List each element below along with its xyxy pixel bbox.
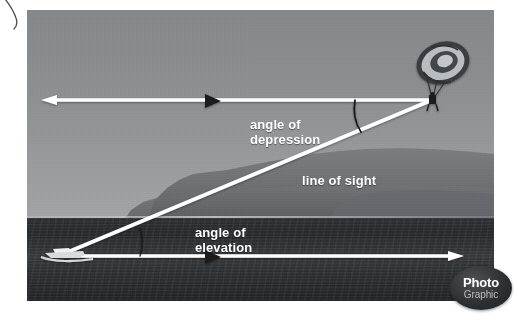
- parasail-canopy: [411, 35, 475, 92]
- label-angle-of-depression: angle of depression: [250, 117, 320, 147]
- page-canvas: angle of depression line of sight angle …: [0, 0, 518, 321]
- watermark-photo-text: Photo: [463, 276, 499, 289]
- diagram-overlay: [27, 10, 494, 301]
- watermark-graphic-text: Graphic: [464, 289, 498, 300]
- label-angle-of-elevation: angle of elevation: [195, 225, 252, 255]
- direction-marker-top: [205, 94, 221, 108]
- angle-of-depression-arc: [354, 100, 361, 132]
- bottom-horizontal-line: [68, 251, 464, 261]
- photograph: angle of depression line of sight angle …: [27, 10, 494, 301]
- scan-artifact-mark: [0, 0, 22, 30]
- photographic-watermark: Photo Graphic: [450, 266, 512, 310]
- label-line-of-sight: line of sight: [302, 173, 376, 188]
- top-horizontal-reference-line: [41, 95, 432, 105]
- angle-of-elevation-arc: [140, 228, 142, 256]
